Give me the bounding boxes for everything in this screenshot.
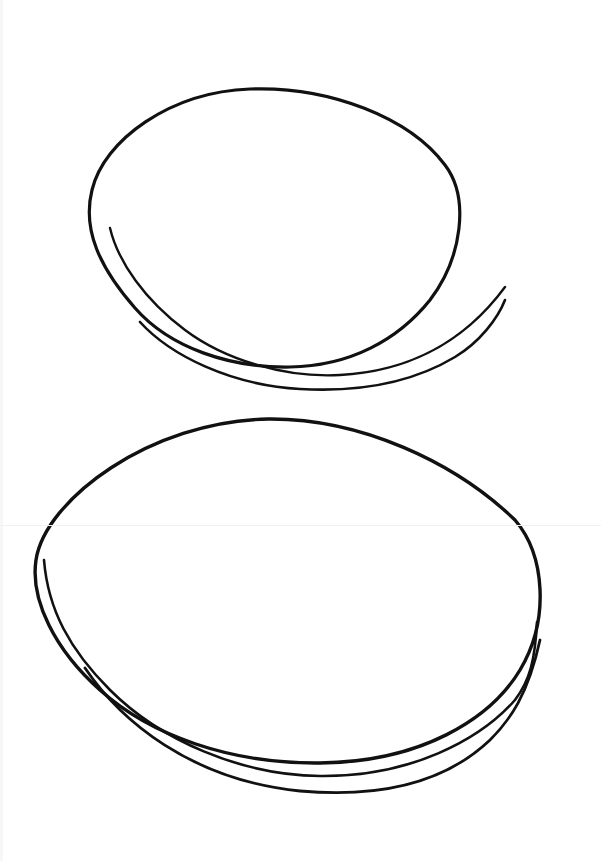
plates-drawing (0, 0, 601, 861)
bottom-plate-underside-inner (44, 560, 537, 776)
top-plate (89, 89, 505, 390)
bottom-plate-underside-outer (85, 640, 540, 793)
scan-edge (0, 0, 3, 861)
bottom-plate (35, 419, 540, 793)
top-plate-underside-inner (110, 228, 505, 375)
illustration-canvas (0, 0, 601, 861)
scan-line (0, 525, 601, 526)
bottom-plate-rim (35, 419, 540, 763)
